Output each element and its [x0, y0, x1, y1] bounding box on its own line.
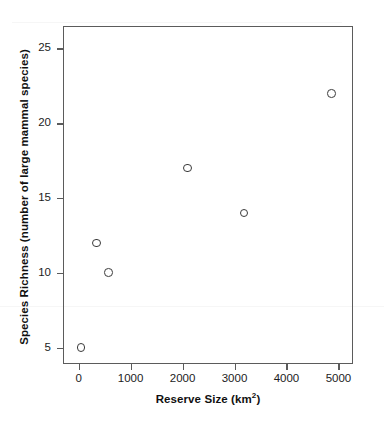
x-tick-label-1000: 1000: [109, 372, 153, 385]
x-tick-label-4000: 4000: [264, 372, 308, 385]
x-tick-4000: [286, 364, 287, 370]
x-tick-5000: [338, 364, 339, 370]
y-tick-10: [57, 273, 63, 274]
x-tick-0: [79, 364, 80, 370]
y-tick-15: [57, 198, 63, 199]
y-tick-5: [57, 348, 63, 349]
data-point: [327, 89, 336, 98]
y-tick-25: [57, 48, 63, 49]
y-tick-20: [57, 123, 63, 124]
data-point: [92, 239, 101, 248]
x-tick-label-3000: 3000: [213, 372, 257, 385]
y-axis-title: Species Richness (number of large mammal…: [18, 28, 34, 366]
x-axis-title-exponent: 2: [252, 391, 257, 400]
scan-artifact: [12, 22, 342, 23]
x-tick-2000: [183, 364, 184, 370]
x-tick-label-2000: 2000: [161, 372, 205, 385]
x-tick-3000: [235, 364, 236, 370]
plot-frame: [63, 26, 353, 364]
x-tick-label-0: 0: [57, 372, 101, 385]
x-tick-1000: [131, 364, 132, 370]
x-tick-label-5000: 5000: [316, 372, 360, 385]
x-axis-title: Reserve Size (km2): [63, 391, 353, 405]
scatter-plot-figure: 010002000300040005000 510152025 Reserve …: [0, 0, 384, 424]
